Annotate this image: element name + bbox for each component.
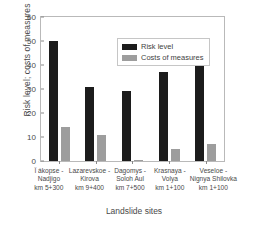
bar-risk-level — [85, 87, 94, 161]
x-axis-tick-label-line: Soloh Aul — [110, 175, 150, 183]
x-axis-tick-label-line: Lazarevskoe - — [69, 167, 110, 175]
x-axis-tick-label-line: Veseloe - — [190, 167, 237, 175]
y-axis-tick-label: 40 — [27, 61, 41, 70]
x-axis-tick-label-line: km 9+400 — [69, 184, 110, 192]
y-axis-tick-label: 30 — [27, 85, 41, 94]
x-axis-tick-label-line: km 5+300 — [29, 184, 69, 192]
x-axis-title: Landslide sites — [0, 206, 268, 216]
x-axis-tick-mark — [206, 161, 207, 164]
legend-label-costs-of-measures: Costs of measures — [141, 53, 204, 62]
bar-costs-of-measures — [134, 160, 143, 161]
bar-group — [41, 17, 78, 161]
x-axis-tick-label-line: Nadjigo — [29, 175, 69, 183]
x-axis-tick-label: Krasnaya -Volyakm 1+100 — [150, 167, 190, 192]
x-axis-tick-label-line: Krasnaya - — [150, 167, 190, 175]
bar-costs-of-measures — [97, 135, 106, 161]
y-axis-tick-label: 50 — [27, 37, 41, 46]
y-axis-tick-label: 60 — [27, 13, 41, 22]
x-axis-tick-label-line: km 1+100 — [150, 184, 190, 192]
plot-area: 0102030405060 Risk level Costs of measur… — [40, 16, 225, 162]
x-axis-tick-mark — [59, 161, 60, 164]
x-axis-tick-mark — [169, 161, 170, 164]
x-axis-tick-label: Veseloe -Nignya Shilovkakm 1+100 — [190, 167, 237, 192]
bar-costs-of-measures — [61, 127, 70, 161]
y-axis-tick-label: 10 — [27, 133, 41, 142]
bar-costs-of-measures — [171, 149, 180, 161]
x-axis-tick-label: Ï ákopse -Nadjigokm 5+300 — [29, 167, 69, 192]
x-axis-tick-label-line: km 7+500 — [110, 184, 150, 192]
y-axis-tick-label: 20 — [27, 109, 41, 118]
bar-risk-level — [159, 72, 168, 161]
x-axis-tick-labels: Ï ákopse -Nadjigokm 5+300Lazarevskoe -Ki… — [29, 167, 237, 192]
bar-risk-level — [49, 41, 58, 161]
bar-risk-level — [122, 91, 131, 161]
x-axis-tick-label-line: Ï ákopse - — [29, 167, 69, 175]
legend-item-risk-level: Risk level — [122, 42, 204, 51]
y-axis-title: Risk level; costs of measures — [22, 0, 32, 145]
y-axis-tick-label: 0 — [32, 157, 41, 166]
bar-costs-of-measures — [207, 144, 216, 161]
bar-group — [78, 17, 115, 161]
x-axis-tick-label-line: Volya — [150, 175, 190, 183]
x-axis-tick-label-line: km 1+100 — [190, 184, 237, 192]
chart-legend: Risk level Costs of measures — [117, 38, 210, 66]
x-axis-tick-mark — [96, 161, 97, 164]
legend-swatch-risk-level — [122, 44, 137, 50]
legend-swatch-costs-of-measures — [122, 55, 137, 61]
x-axis-tick-label-line: Nignya Shilovka — [190, 175, 237, 183]
x-axis-tick-label-line: Kirova — [69, 175, 110, 183]
x-axis-tick-label-line: Dagomys - — [110, 167, 150, 175]
x-axis-tick-label: Lazarevskoe -Kirovakm 9+400 — [69, 167, 110, 192]
x-axis-tick-mark — [132, 161, 133, 164]
bar-chart-figure: Risk level; costs of measures 0102030405… — [0, 0, 268, 231]
legend-label-risk-level: Risk level — [141, 42, 173, 51]
legend-item-costs-of-measures: Costs of measures — [122, 53, 204, 62]
x-axis-tick-label: Dagomys -Soloh Aulkm 7+500 — [110, 167, 150, 192]
